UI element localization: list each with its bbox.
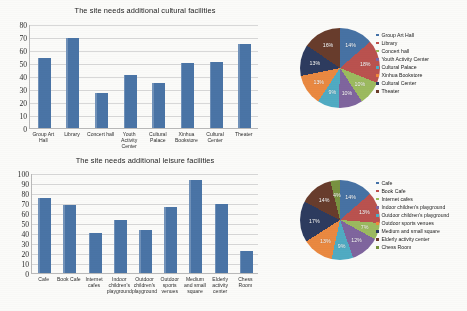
legend-item-label: Outdoor children's playground [381,212,449,218]
x-tick-label: Theater [229,131,258,137]
legend-color-swatch [376,50,379,53]
bar [114,220,127,273]
x-tick-label: Group Art Hall [29,131,58,143]
legend-color-swatch [376,238,379,241]
y-tick-label: 10 [21,260,29,269]
x-tick-label: Xinhua Bookstore [172,131,201,143]
pie-slice-value-label: 9% [338,243,346,249]
pie-slice-value-label: 18% [360,61,371,67]
legend-item: Outdoor children's playground [376,212,449,218]
y-tick-label: 10 [19,112,27,121]
pie-slice-value-label: 10% [354,81,365,87]
x-tick-label: Cultural Palace [144,131,173,143]
pie-slice-value-label: 13% [320,238,331,244]
legend-item-label: Library [381,40,397,46]
y-tick-label: 20 [21,250,29,259]
x-tick-label: Book Cafe [56,276,81,282]
y-tick-label: 70 [21,200,29,209]
pie-slice-value-label: 13% [359,209,370,215]
legend-item-label: Book Cafe [381,188,405,194]
x-tick-label: Outdoor sports venues [157,276,182,294]
legend-item: Outdoor sports venues [376,220,449,226]
x-tick-label: Youth Activity Center [115,131,144,149]
pie-slice-value-label: 7% [361,224,369,230]
gridline [30,103,258,104]
bar [181,63,194,128]
legend-item-label: Cafe [381,180,392,186]
chart-title-cultural: The site needs additional cultural facil… [0,6,290,15]
legend-item: Concert hall [376,48,429,54]
bar [238,44,251,129]
bar [89,233,102,273]
y-tick-label: 80 [19,21,27,30]
pie-slice-value-label: 10% [342,90,353,96]
bar [152,83,165,129]
x-tick-label: Concert hall [86,131,115,137]
legend-item-label: Xinhua Bookstore [381,72,422,78]
gridline [30,77,258,78]
x-tick-label: Cafe [31,276,56,282]
y-tick-label: 70 [19,34,27,43]
legend-color-swatch [376,222,379,225]
y-tick-label: 60 [19,47,27,56]
legend-item: Group Art Hall [376,32,429,38]
gridline [30,38,258,39]
legend-item-label: Outdoor sports venues [381,220,433,226]
bar [38,58,51,128]
legend-item: Xinhua Bookstore [376,72,429,78]
bar [63,205,76,273]
y-tick-label: 30 [19,86,27,95]
legend-item-label: Concert hall [381,48,409,54]
x-tick-label: Chess Room [233,276,258,288]
bar [240,251,253,273]
legend-color-swatch [376,182,379,185]
legend-item-label: Internet cafes [381,196,412,202]
cultural-pie-panel: Group Art HallLibraryConcert hallYouth A… [296,26,467,144]
y-tick-label: 40 [19,73,27,82]
legend-item: Book Cafe [376,188,449,194]
legend-color-swatch [376,42,379,45]
pie-slice-value-label: 17% [309,218,320,224]
legend-item-label: Cultural Center [381,80,416,86]
legend-item-label: Cultural Palace [381,64,416,70]
chart-title-leisure: The site needs additional leisure facili… [0,156,290,165]
cultural-pie-chart [300,28,380,108]
pie-slice-value-label: 4% [333,192,341,198]
leisure-facilities-chart-panel: The site needs additional leisure facili… [0,156,290,311]
legend-item-label: Indoor children's playground [381,204,445,210]
legend-color-swatch [376,34,379,37]
y-tick-label: 50 [19,60,27,69]
legend-color-swatch [376,58,379,61]
legend-item: Cultural Palace [376,64,429,70]
legend-item-label: Youth Activity Center [381,56,429,62]
pie-slice-value-label: 9% [328,89,336,95]
cultural-plot-area: 01020304050607080 [10,25,258,129]
gridline [30,25,258,26]
legend-color-swatch [376,74,379,77]
bar [124,75,137,128]
legend-item: Cafe [376,180,449,186]
legend-color-swatch [376,198,379,201]
y-tick-label: 80 [21,190,29,199]
x-tick-label: Elderly activity center [208,276,233,294]
y-tick-label: 20 [19,99,27,108]
legend-item: Medium and small square [376,228,449,234]
gridline [30,90,258,91]
legend-item-label: Group Art Hall [381,32,414,38]
gridline [32,174,258,175]
legend-color-swatch [376,90,379,93]
y-tick-label: 100 [18,170,29,179]
pie-slice-value-label: 14% [345,42,356,48]
legend-item-label: Theater [381,88,399,94]
legend-item: Library [376,40,429,46]
y-tick-label: 60 [21,210,29,219]
pie-slice-value-label: 16% [323,42,334,48]
x-tick-label: Indoor children's playground [107,276,132,294]
legend-item: Internet cafes [376,196,449,202]
leisure-plot-area: 0102030405060708090100 [10,174,258,274]
legend-color-swatch [376,214,379,217]
legend-item-label: Medium and small square [381,228,439,234]
gridline [30,116,258,117]
gridline [32,184,258,185]
pie-slice-value-label: 13% [310,60,321,66]
